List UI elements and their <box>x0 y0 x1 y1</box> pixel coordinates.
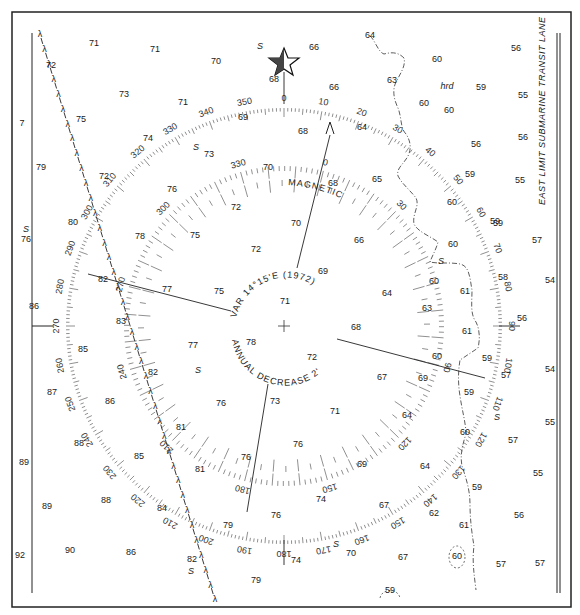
depth-sounding: 80 <box>68 217 78 227</box>
depth-sounding: 82 <box>187 554 197 564</box>
scale-tick <box>494 371 497 372</box>
scale-tick <box>99 210 102 212</box>
scale-tick <box>380 420 389 428</box>
scale-tick <box>425 488 427 491</box>
depth-sounding: 68 <box>269 74 279 84</box>
submarine-cable-line: λλλλλλλλλλλλλλλλλλλλλλλλλλλλλλλλλλλλλλλ <box>38 29 218 604</box>
scale-tick <box>381 517 383 520</box>
scale-tick <box>213 120 214 123</box>
scale-tick <box>86 234 91 237</box>
depth-sounding: 57 <box>535 558 545 568</box>
depth-sounding: 56 <box>511 43 521 53</box>
depth-sounding: 77 <box>162 284 172 294</box>
scale-tick <box>79 251 87 254</box>
scale-tick <box>242 537 243 540</box>
scale-tick <box>110 455 113 457</box>
scale-tick <box>93 220 96 222</box>
scale-tick <box>217 119 218 122</box>
cable-symbol: λ <box>79 163 84 173</box>
cable-symbol: λ <box>130 327 135 337</box>
scale-tick <box>250 111 251 114</box>
scale-tick <box>336 114 337 117</box>
scale-tick <box>228 115 230 121</box>
cable-symbol: λ <box>208 580 213 590</box>
scale-tick <box>185 448 188 452</box>
scale-tick <box>466 210 469 212</box>
scale-tick <box>444 460 451 466</box>
scale-tick <box>186 199 189 203</box>
scale-tick <box>458 452 461 454</box>
scale-tick <box>195 193 198 197</box>
scale-tick <box>443 470 446 472</box>
cable-symbol: λ <box>93 208 98 218</box>
scale-tick <box>400 219 404 222</box>
scale-tick <box>115 461 118 463</box>
depth-sounding: 74 <box>291 555 301 565</box>
scale-tick <box>320 455 323 467</box>
scale-tick <box>208 463 210 467</box>
scale-tick <box>225 177 227 182</box>
scale-tick <box>130 476 134 480</box>
depth-sounding: 68 <box>328 178 338 188</box>
scale-tick <box>436 293 441 294</box>
scale-tick <box>141 255 145 257</box>
scale-tick <box>232 189 234 195</box>
scale-tick <box>136 265 141 267</box>
scale-tick <box>69 288 78 290</box>
scale-label: 280 <box>54 278 66 295</box>
scale-tick <box>441 177 444 179</box>
scale-tick <box>438 175 441 177</box>
scale-tick <box>209 121 212 129</box>
scale-tick <box>217 530 218 533</box>
scale-tick <box>73 381 79 383</box>
depth-sounding: 72 <box>307 352 317 362</box>
scale-tick <box>327 172 328 177</box>
scale-tick <box>477 230 480 232</box>
scale-tick <box>367 191 370 195</box>
scale-tick <box>83 410 86 411</box>
scale-tick <box>364 525 365 528</box>
scale-tick <box>446 467 449 469</box>
depth-sounding: 65 <box>372 174 382 184</box>
scale-tick <box>146 278 152 280</box>
scale-tick <box>97 214 100 216</box>
depth-sounding: 88 <box>74 438 84 448</box>
scale-tick <box>383 445 386 449</box>
scale-tick <box>419 493 421 496</box>
scale-tick <box>432 337 444 338</box>
scale-tick <box>144 159 150 166</box>
scale-tick <box>213 529 214 532</box>
scale-tick <box>401 143 403 146</box>
scale-tick <box>455 455 458 457</box>
cable-symbol: λ <box>148 386 153 396</box>
scale-tick <box>126 303 131 304</box>
scale-tick <box>69 360 72 361</box>
scale-tick <box>133 480 135 483</box>
scale-tick <box>346 468 348 473</box>
scale-tick <box>73 270 79 272</box>
depth-sounding: 63 <box>387 75 397 85</box>
depth-sounding: 90 <box>65 545 75 555</box>
scale-tick <box>399 430 403 433</box>
depth-sounding: 69 <box>357 459 367 469</box>
depth-sounding: 76 <box>271 510 281 520</box>
scale-tick <box>115 189 118 191</box>
scale-label: 70 <box>491 242 504 255</box>
scale-tick <box>151 266 162 271</box>
scale-tick <box>122 470 125 472</box>
scale-label: 150 <box>321 481 338 495</box>
scale-tick <box>476 416 481 419</box>
cable-symbol: λ <box>176 475 181 485</box>
scale-tick <box>443 180 446 182</box>
cable-symbol: λ <box>167 446 172 456</box>
depth-sounding: 62 <box>429 508 439 518</box>
scale-tick <box>354 120 355 123</box>
scale-tick <box>339 531 341 537</box>
scale-tick <box>165 143 167 146</box>
scale-label: 30 <box>395 198 409 212</box>
scale-tick <box>156 500 158 503</box>
scale-tick <box>393 241 403 248</box>
cable-symbol: λ <box>98 223 103 233</box>
scale-tick <box>428 164 430 167</box>
cable-symbol: λ <box>38 29 43 39</box>
